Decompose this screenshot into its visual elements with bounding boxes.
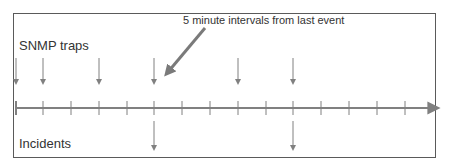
annotation-arrow [168,28,205,72]
incident-arrows [154,121,293,148]
snmp-trap-arrows [16,58,293,82]
timeline-diagram [0,0,450,165]
annotation-arrow-icon [168,28,205,72]
